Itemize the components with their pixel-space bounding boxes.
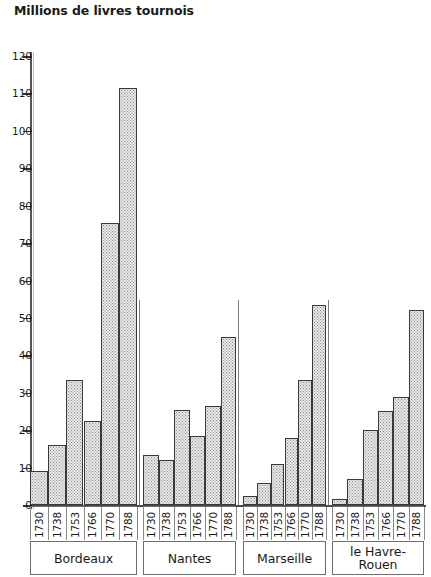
year-cell-divider <box>119 507 120 540</box>
year-cell-divider <box>143 507 144 540</box>
year-cell-divider <box>298 507 299 540</box>
x-tick-label: 1788 <box>123 512 133 538</box>
x-tick-label: 1766 <box>286 512 296 538</box>
bar <box>312 305 326 505</box>
group-label-box: le Havre-Rouen <box>332 541 424 575</box>
year-label-cell: 1788 <box>221 506 237 540</box>
year-label-cell: 1766 <box>84 506 102 540</box>
year-cell-divider <box>409 507 410 540</box>
bar <box>84 421 102 505</box>
bar <box>285 438 299 505</box>
year-cell-divider <box>236 507 237 540</box>
year-cell-divider <box>326 507 327 540</box>
x-tick-label: 1753 <box>365 512 375 538</box>
year-cell-divider <box>137 507 138 540</box>
bar <box>363 430 378 505</box>
bar <box>159 460 175 505</box>
x-tick-label: 1770 <box>300 512 310 538</box>
group-label-box: Nantes <box>143 541 236 575</box>
x-tick-label: 1766 <box>381 512 391 538</box>
year-cell-divider <box>312 507 313 540</box>
y-tick-label: 110 <box>8 88 32 98</box>
year-cell-divider <box>84 507 85 540</box>
year-cell-divider <box>285 507 286 540</box>
year-label-cell: 1730 <box>243 506 257 540</box>
y-tick-label: 120 <box>8 51 32 61</box>
year-cell-divider <box>332 507 333 540</box>
x-tick-label: 1766 <box>87 512 97 538</box>
x-tick-label: 1770 <box>105 512 115 538</box>
x-tick-label: 1738 <box>350 512 360 538</box>
bar <box>393 397 408 506</box>
year-label-cell: 1766 <box>190 506 206 540</box>
x-tick-label: 1730 <box>146 512 156 538</box>
bar <box>378 411 393 505</box>
year-label-cell: 1766 <box>378 506 393 540</box>
group-separator <box>238 300 239 506</box>
year-cell-divider <box>30 507 31 540</box>
year-label-cell: 1730 <box>332 506 347 540</box>
y-tick-label: 0 <box>8 500 32 510</box>
year-label-cell: 1788 <box>312 506 326 540</box>
year-label-cell: 1788 <box>119 506 137 540</box>
bar-chart: Millions de livres tournois 010203040506… <box>0 0 431 577</box>
bar <box>119 88 137 505</box>
year-label-cell: 1738 <box>159 506 175 540</box>
year-cell-divider <box>363 507 364 540</box>
group-label: le Havre-Rouen <box>350 545 406 571</box>
year-cell-divider <box>347 507 348 540</box>
bar <box>143 455 159 506</box>
x-tick-label: 1753 <box>273 512 283 538</box>
year-label-cell: 1738 <box>257 506 271 540</box>
year-label-cell: 1766 <box>285 506 299 540</box>
x-tick-label: 1770 <box>396 512 406 538</box>
bar <box>257 483 271 505</box>
group-separator <box>328 300 329 506</box>
plot-area <box>30 56 426 505</box>
x-tick-label: 1788 <box>223 512 233 538</box>
x-tick-label: 1753 <box>177 512 187 538</box>
year-cell-divider <box>424 507 425 540</box>
bar <box>298 380 312 505</box>
y-tick-label: 30 <box>8 388 32 398</box>
y-tick-label: 10 <box>8 463 32 473</box>
bar <box>30 471 48 505</box>
year-cell-divider <box>66 507 67 540</box>
y-tick-label: 40 <box>8 350 32 360</box>
bar <box>190 436 206 505</box>
year-cell-divider <box>159 507 160 540</box>
x-tick-label: 1738 <box>259 512 269 538</box>
year-cell-divider <box>257 507 258 540</box>
bar <box>243 496 257 505</box>
x-tick-label: 1730 <box>335 512 345 538</box>
group-label: Marseille <box>257 552 312 565</box>
year-label-cell: 1770 <box>393 506 408 540</box>
year-cell-divider <box>190 507 191 540</box>
x-tick-label: 1738 <box>161 512 171 538</box>
y-tick-label: 100 <box>8 126 32 136</box>
year-cell-divider <box>101 507 102 540</box>
bar <box>221 337 237 505</box>
year-cell-divider <box>378 507 379 540</box>
year-label-cell: 1753 <box>66 506 84 540</box>
year-cell-divider <box>205 507 206 540</box>
x-tick-label: 1753 <box>70 512 80 538</box>
y-tick-label: 80 <box>8 201 32 211</box>
year-label-cell: 1738 <box>347 506 362 540</box>
group-label: Nantes <box>168 552 211 565</box>
group-separator <box>139 300 140 506</box>
x-tick-label: 1788 <box>314 512 324 538</box>
year-label-cell: 1730 <box>143 506 159 540</box>
bar <box>271 464 285 505</box>
bar <box>332 499 347 505</box>
year-label-cell: 1770 <box>205 506 221 540</box>
group-label: Bordeaux <box>54 552 113 565</box>
year-label-cell: 1753 <box>174 506 190 540</box>
year-label-cell: 1738 <box>48 506 66 540</box>
bar <box>174 410 190 505</box>
bar <box>48 445 66 505</box>
group-label-box: Bordeaux <box>30 541 137 575</box>
year-cell-divider <box>221 507 222 540</box>
bar <box>205 406 221 505</box>
year-label-cell: 1770 <box>101 506 119 540</box>
